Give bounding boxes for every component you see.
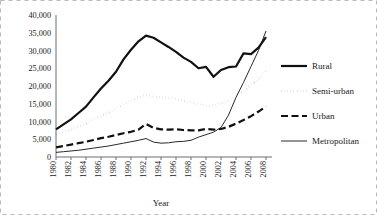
series-line-metropolitan (56, 31, 266, 152)
x-tick-label: 1984 (79, 161, 88, 177)
line-chart: 40,00035,00030,00025,00020,00015,00010,0… (0, 0, 377, 215)
y-tick-label: 30,000 (28, 47, 51, 56)
x-tick-label: 2006 (244, 161, 253, 177)
legend-label-semi-urban: Semi-urban (312, 86, 354, 96)
x-axis-title: Year (153, 198, 170, 208)
x-tick-label: 2000 (199, 161, 208, 177)
y-tick-label: 25,000 (28, 64, 51, 73)
x-tick-label: 1992 (139, 161, 148, 177)
x-tick-label: 1994 (154, 161, 163, 177)
x-tick-label: 1986 (94, 161, 103, 177)
y-tick-label: 20,000 (28, 82, 51, 91)
y-tick-label: 10,000 (28, 118, 51, 127)
legend-label-metropolitan: Metropolitan (312, 136, 359, 146)
x-tick-label: 2002 (214, 161, 223, 177)
y-tick-label: 35,000 (28, 29, 51, 38)
x-tick-label: 1998 (184, 161, 193, 177)
y-tick-label: 15,000 (28, 100, 51, 109)
figure-border (1, 1, 377, 215)
legend-label-rural: Rural (312, 61, 332, 71)
x-tick-label: 1982 (64, 161, 73, 177)
y-axis-tick-labels: 40,00035,00030,00025,00020,00015,00010,0… (28, 11, 51, 162)
x-tick-label: 2004 (229, 161, 238, 177)
x-tick-label: 1996 (169, 161, 178, 177)
x-tick-label: 2008 (259, 161, 268, 177)
x-axis-tick-labels: 1980198219841986198819901992199419961998… (49, 157, 268, 177)
chart-legend: RuralSemi-urbanUrbanMetropolitan (281, 61, 359, 146)
y-tick-label: 5,000 (33, 135, 51, 144)
y-tick-label: 40,000 (28, 11, 51, 20)
legend-label-urban: Urban (312, 111, 335, 121)
series-lines (56, 31, 266, 152)
series-line-urban (56, 107, 266, 148)
x-tick-label: 1980 (49, 161, 58, 177)
y-tick-label: 0 (47, 153, 51, 162)
x-tick-label: 1988 (109, 161, 118, 177)
chart-figure: 40,00035,00030,00025,00020,00015,00010,0… (0, 0, 377, 215)
series-line-rural (56, 36, 266, 130)
x-tick-label: 1990 (124, 161, 133, 177)
